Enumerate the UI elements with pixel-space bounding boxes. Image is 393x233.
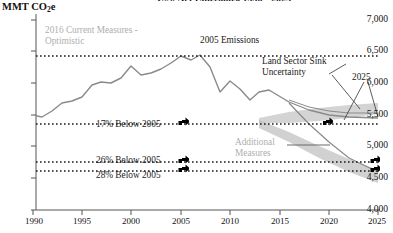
historical-emissions-line — [33, 55, 289, 117]
annotation-year-2025: 2025 — [352, 72, 371, 82]
x-tick-label: 2015 — [260, 216, 300, 226]
y-tick-label: 4,500 — [354, 172, 388, 182]
x-tick-label: 2000 — [111, 216, 151, 226]
y-tick-label: 7,000 — [354, 14, 388, 24]
annotation-land-sink-line1: Land Sector Sink — [262, 56, 327, 66]
annotation-land-sink-line2: Uncertainty — [262, 67, 306, 77]
annotation-17-below-2005: 17% Below 2005 — [96, 119, 161, 129]
y-tick-label: 5,000 — [354, 140, 388, 150]
x-tick-label: 2010 — [210, 216, 250, 226]
y-axis-ticks — [31, 20, 36, 210]
x-tick-label: 2005 — [161, 216, 201, 226]
annotation-current-measures-line2: Optimistic — [45, 36, 84, 46]
x-tick-label: 1990 — [14, 216, 54, 226]
annotation-additional-measures-line1: Additional — [235, 137, 275, 147]
x-axis-ticks — [33, 210, 378, 215]
x-tick-label: 1995 — [62, 216, 102, 226]
annotation-2005-emissions: 2005 Emissions — [200, 35, 259, 45]
y-tick-label: 6,500 — [354, 45, 388, 55]
y-tick-label: 4,000 — [354, 204, 388, 214]
annotation-26-below-2005: 26% Below 2005 — [96, 155, 161, 165]
annotation-current-measures-line1: 2016 Current Measures - — [45, 25, 138, 35]
annotation-28-below-2005: 28% Below 2005 — [96, 170, 161, 180]
x-tick-label: 2020 — [309, 216, 349, 226]
x-tick-label: 2025 — [357, 216, 393, 226]
annotation-additional-measures-line2: Measures — [235, 148, 271, 158]
y-tick-label: 5,500 — [354, 109, 388, 119]
